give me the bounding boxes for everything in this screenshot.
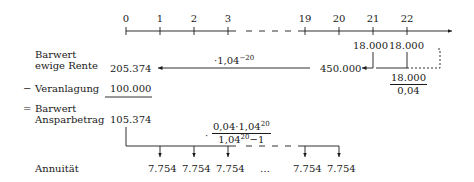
- annuity-20: 7.754: [327, 163, 356, 174]
- annuity-19: 7.754: [293, 163, 322, 174]
- annuity-num-exp: 20: [261, 120, 270, 128]
- tick-label-21: 21: [367, 13, 380, 24]
- equals-sign: =: [23, 103, 31, 114]
- tick-label-2: 2: [191, 13, 197, 24]
- tick-label-19: 19: [299, 13, 312, 24]
- tick-label-3: 3: [225, 13, 231, 24]
- discount-factor: ·1,04−20: [214, 55, 254, 66]
- label-veranlagung: Veranlagung: [35, 83, 99, 94]
- annuity-den-minus: −1: [250, 134, 265, 145]
- payment-21: 18.000: [353, 40, 388, 51]
- perpetuity-numerator: 18.000: [390, 73, 427, 85]
- label-annuitaet: Annuität: [35, 163, 79, 174]
- label-barwert-ewige-rente-1: Barwert: [35, 49, 76, 60]
- tick-label-0: 0: [123, 13, 129, 24]
- value-barwert-ansparbetrag: 105.374: [110, 114, 151, 125]
- label-barwert-ewige-rente-2: ewige Rente: [35, 60, 98, 71]
- discount-base: ·1,04: [214, 55, 239, 66]
- annuity-denominator: 1,0420−1: [212, 134, 271, 145]
- annuity-1: 7.754: [148, 163, 177, 174]
- tick-label-22: 22: [401, 13, 414, 24]
- value-barwert-ewige-rente: 205.374: [110, 63, 151, 74]
- annuity-ellipsis: …: [260, 163, 270, 174]
- timeline-axis: [126, 27, 452, 35]
- tick-label-1: 1: [157, 13, 163, 24]
- label-barwert-ansparbetrag-1: Barwert: [35, 103, 76, 114]
- annuity-factor: 0,04·1,0420 1,0420−1: [212, 122, 271, 145]
- tick-label-20: 20: [333, 13, 346, 24]
- perpetuity-formula: 18.000 0,04: [390, 73, 427, 96]
- discount-exponent: −20: [239, 54, 254, 62]
- minus-sign: −: [23, 83, 31, 94]
- annuity-3: 7.754: [216, 163, 245, 174]
- payment-22: 18.000: [389, 40, 424, 51]
- annuity-dot: ·: [205, 130, 208, 141]
- label-barwert-ansparbetrag-2: Ansparbetrag: [35, 114, 104, 125]
- annuity-2: 7.754: [182, 163, 211, 174]
- perpetuity-value: 450.000: [320, 63, 361, 74]
- perpetuity-denominator: 0,04: [390, 85, 427, 96]
- annuity-num-base: 0,04·1,04: [213, 121, 261, 132]
- annuity-den-base: 1,04: [218, 134, 240, 145]
- annuity-den-exp: 20: [241, 133, 250, 141]
- value-veranlagung: 100.000: [110, 83, 151, 94]
- perpetuity-connectors: [362, 49, 440, 68]
